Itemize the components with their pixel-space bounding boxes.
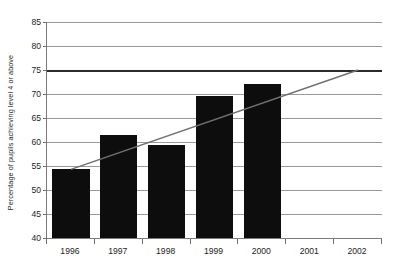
y-axis-title: Percentage of pupils achieving level 4 o… — [0, 0, 20, 265]
x-tick-mark — [237, 239, 238, 244]
x-tick-mark — [142, 239, 143, 244]
x-tick-label: 2001 — [300, 246, 319, 256]
chart-container: Percentage of pupils achieving level 4 o… — [0, 0, 398, 265]
plot-area — [46, 22, 382, 239]
y-tick-label: 75 — [0, 65, 46, 75]
y-tick-label: 70 — [0, 89, 46, 99]
y-tick-label: 45 — [0, 209, 46, 219]
x-tick-mark — [333, 239, 334, 244]
x-tick-label: 1998 — [156, 246, 175, 256]
x-tick-mark — [46, 239, 47, 244]
x-tick-label: 1996 — [60, 246, 79, 256]
x-axis-labels: 1996199719981999200020012002 — [46, 239, 381, 265]
trend-line — [71, 70, 358, 169]
x-tick-label: 2002 — [348, 246, 367, 256]
x-tick-label: 1999 — [204, 246, 223, 256]
x-tick-mark — [381, 239, 382, 244]
y-tick-label: 50 — [0, 185, 46, 195]
y-tick-label: 85 — [0, 17, 46, 27]
x-tick-mark — [94, 239, 95, 244]
x-tick-mark — [190, 239, 191, 244]
x-tick-mark — [285, 239, 286, 244]
y-tick-label: 60 — [0, 137, 46, 147]
x-tick-label: 1997 — [108, 246, 127, 256]
y-tick-label: 65 — [0, 113, 46, 123]
y-tick-label: 80 — [0, 41, 46, 51]
y-tick-label: 40 — [0, 233, 46, 243]
y-tick-label: 55 — [0, 161, 46, 171]
trend-line-layer — [47, 22, 382, 238]
x-tick-label: 2000 — [252, 246, 271, 256]
